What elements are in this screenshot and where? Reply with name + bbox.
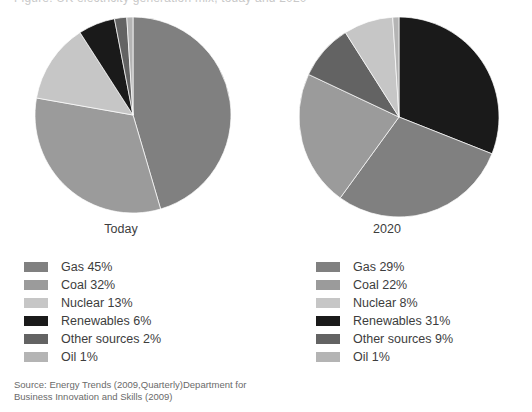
pie-chart-2020 [266,17,532,213]
chart-block-2020: 2020 Gas 29%Coal 22%Nuclear 8%Renewables… [266,0,532,412]
legend-item-nuclear: Nuclear 8% [316,294,453,312]
legend-today: Gas 45%Coal 32%Nuclear 13%Renewables 6%O… [24,258,161,366]
legend-swatch-gas [316,262,340,272]
pie-svg-today [33,17,233,213]
pie-chart-today [0,17,266,213]
legend-item-other-sources: Other sources 9% [316,330,453,348]
legend-swatch-coal [24,280,48,290]
legend-swatch-renewables [316,316,340,326]
chart-block-today: Today Gas 45%Coal 32%Nuclear 13%Renewabl… [0,0,266,412]
legend-item-oil: Oil 1% [316,348,453,366]
legend-item-renewables: Renewables 31% [316,312,453,330]
legend-label: Coal 32% [61,279,115,292]
legend-label: Gas 45% [61,261,112,274]
legend-label: Gas 29% [353,261,404,274]
legend-item-other-sources: Other sources 2% [24,330,161,348]
legend-label: Other sources 2% [61,333,161,346]
pie-caption-2020: 2020 [266,222,532,236]
legend-item-coal: Coal 32% [24,276,161,294]
legend-swatch-coal [316,280,340,290]
pie-caption-today: Today [0,222,266,236]
legend-item-coal: Coal 22% [316,276,453,294]
source-line-1: Source: Energy Trends (2009,Quarterly)De… [14,379,246,391]
legend-label: Coal 22% [353,279,407,292]
legend-item-nuclear: Nuclear 13% [24,294,161,312]
legend-label: Other sources 9% [353,333,453,346]
legend-swatch-nuclear [24,298,48,308]
source-note: Source: Energy Trends (2009,Quarterly)De… [14,379,246,402]
legend-swatch-renewables [24,316,48,326]
legend-item-gas: Gas 29% [316,258,453,276]
source-line-2: Business Innovation and Skills (2009) [14,391,246,403]
legend-item-gas: Gas 45% [24,258,161,276]
legend-label: Oil 1% [353,351,390,364]
legend-label: Nuclear 13% [61,297,133,310]
legend-swatch-oil [24,352,48,362]
pie-svg-2020 [296,17,502,217]
legend-swatch-oil [316,352,340,362]
legend-item-renewables: Renewables 6% [24,312,161,330]
legend-swatch-nuclear [316,298,340,308]
legend-item-oil: Oil 1% [24,348,161,366]
legend-label: Nuclear 8% [353,297,418,310]
legend-2020: Gas 29%Coal 22%Nuclear 8%Renewables 31%O… [316,258,453,366]
legend-label: Renewables 31% [353,315,450,328]
legend-label: Renewables 6% [61,315,151,328]
legend-swatch-other-sources [316,334,340,344]
legend-swatch-gas [24,262,48,272]
legend-label: Oil 1% [61,351,98,364]
legend-swatch-other-sources [24,334,48,344]
